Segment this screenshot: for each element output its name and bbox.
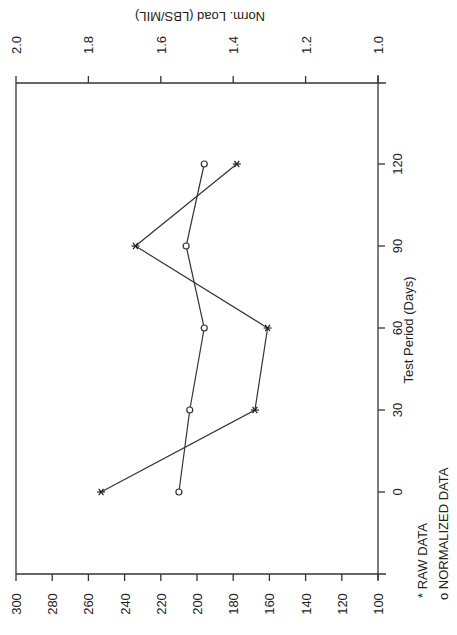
norm-load-tick-label: 1.8 — [81, 36, 96, 54]
raw-load-tick-label: 280 — [45, 593, 60, 615]
raw-load-tick-label: 260 — [81, 593, 96, 615]
raw-load-tick-label: 120 — [335, 593, 350, 615]
norm-load-tick-label: 2.0 — [9, 36, 24, 54]
circle-marker-icon — [187, 407, 193, 413]
norm-load-axis-title: Norm. Load (LBS/MIL) — [135, 9, 265, 24]
test-period-axis-title: Test Period (Days) — [401, 277, 416, 384]
circle-marker-icon — [176, 489, 182, 495]
raw-load-tick-label: 180 — [226, 593, 241, 615]
legend-raw-data: * RAW DATA — [415, 523, 430, 598]
data-series — [97, 161, 272, 495]
day-tick-label: 30 — [390, 403, 405, 417]
raw-data-line — [101, 164, 268, 492]
line-chart: 2.01.81.61.41.21.0 300280260240220200180… — [0, 0, 457, 635]
asterisk-marker-icon — [97, 489, 105, 495]
circle-marker-icon — [201, 325, 207, 331]
norm-load-tick-label: 1.2 — [299, 36, 314, 54]
circle-marker-icon — [183, 243, 189, 249]
day-tick-label: 120 — [390, 153, 405, 175]
raw-load-tick-label: 300 — [9, 593, 24, 615]
norm-load-axis: 2.01.81.61.41.21.0 — [9, 36, 386, 83]
legend-normalized-data: o NORMALIZED DATA — [436, 467, 451, 600]
raw-load-tick-label: 220 — [154, 593, 169, 615]
norm-load-tick-label: 1.4 — [226, 36, 241, 54]
raw-load-tick-label: 200 — [190, 593, 205, 615]
raw-load-tick-label: 240 — [118, 593, 133, 615]
day-tick-label: 90 — [390, 239, 405, 253]
circle-marker-icon — [201, 161, 207, 167]
raw-load-tick-label: 140 — [299, 593, 314, 615]
day-tick-label: 0 — [390, 488, 405, 495]
raw-load-tick-label: 100 — [371, 593, 386, 615]
normalized-data-line — [179, 164, 204, 492]
norm-load-tick-label: 1.0 — [371, 36, 386, 54]
norm-load-tick-label: 1.6 — [154, 36, 169, 54]
raw-load-axis: 300280260240220200180160140120100 — [9, 574, 386, 615]
raw-load-tick-label: 160 — [262, 593, 277, 615]
